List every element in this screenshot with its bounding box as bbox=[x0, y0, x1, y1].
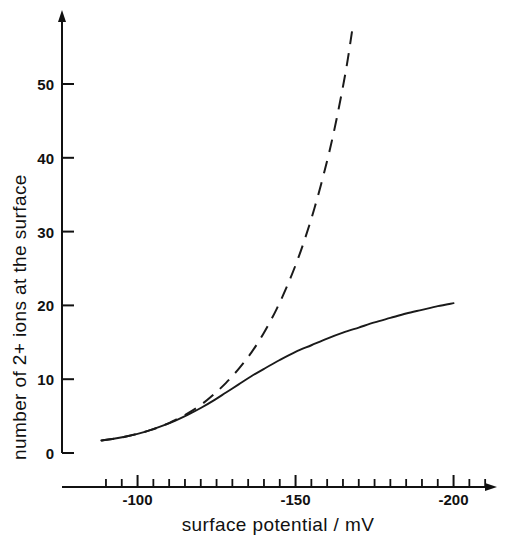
data-curve-solid bbox=[101, 303, 453, 440]
x-axis-tick-labels: -100-150-200 bbox=[123, 491, 469, 508]
chart-figure: number of 2+ ions at the surface surface… bbox=[0, 0, 506, 541]
y-axis-tick-labels: 01020304050 bbox=[37, 76, 54, 462]
x-axis-label-group: surface potential / mV bbox=[182, 514, 375, 535]
y-axis-arrowhead bbox=[58, 10, 66, 22]
y-tick-label: 10 bbox=[37, 371, 54, 388]
x-tick-label: -200 bbox=[439, 491, 469, 508]
y-tick-label: 30 bbox=[37, 224, 54, 241]
data-curve-dashed bbox=[101, 29, 352, 441]
chart-canvas: number of 2+ ions at the surface surface… bbox=[0, 0, 506, 541]
x-tick-label: -150 bbox=[281, 491, 311, 508]
x-axis-label: surface potential / mV bbox=[182, 514, 375, 535]
y-tick-label: 20 bbox=[37, 297, 54, 314]
y-axis-label-group: number of 2+ ions at the surface bbox=[9, 174, 30, 460]
x-axis-arrowhead bbox=[485, 483, 497, 491]
y-axis-ticks bbox=[62, 84, 74, 453]
y-tick-label: 40 bbox=[37, 150, 54, 167]
y-axis-label: number of 2+ ions at the surface bbox=[9, 174, 30, 460]
y-tick-label: 50 bbox=[37, 76, 54, 93]
x-tick-label: -100 bbox=[123, 491, 153, 508]
y-tick-label: 0 bbox=[46, 445, 54, 462]
